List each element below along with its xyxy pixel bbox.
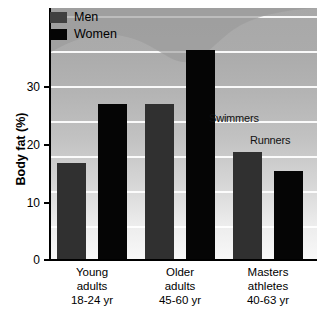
body-fat-bar-chart: Swimmers Runners Men Women 30 20 10 0 Bo…	[0, 0, 317, 317]
bar-young-adults-women	[98, 104, 127, 260]
women-swatch-icon	[50, 29, 67, 40]
y-axis-title: Body fat (%)	[14, 84, 28, 214]
x-axis-line	[49, 259, 317, 261]
gridline-30	[51, 51, 317, 53]
y-tick-mark-30	[44, 86, 50, 88]
gridline-15	[51, 156, 317, 158]
y-tick-label-0: 0	[33, 253, 40, 267]
legend-label-women: Women	[74, 27, 117, 41]
gridline-25	[51, 86, 317, 88]
bar-masters-athletes-runners	[274, 171, 303, 260]
x-axis-group-young-adults-line3: 18-24 yr	[42, 293, 142, 307]
gridline-20	[51, 121, 317, 123]
legend-item-women: Women	[50, 27, 117, 41]
plot-area: Swimmers Runners	[51, 8, 317, 259]
x-axis-group-older-adults-line1: Older	[130, 265, 230, 279]
legend-label-men: Men	[74, 10, 98, 24]
x-axis-group-masters-athletes: Masters athletes 40-63 yr	[218, 265, 317, 307]
y-tick-label-20: 20	[27, 138, 40, 152]
y-tick-label-30: 30	[27, 80, 40, 94]
annotation-swimmers: Swimmers	[209, 112, 259, 124]
bar-older-adults-men	[145, 104, 174, 260]
x-axis-group-young-adults-line2: adults	[42, 279, 142, 293]
x-axis-group-older-adults-line3: 45-60 yr	[130, 293, 230, 307]
bar-young-adults-men	[57, 163, 86, 259]
legend-item-men: Men	[50, 10, 117, 24]
x-axis-group-masters-athletes-line2: athletes	[218, 279, 317, 293]
x-axis-group-older-adults-line2: adults	[130, 279, 230, 293]
y-tick-mark-0	[44, 259, 50, 261]
x-axis-group-older-adults: Older adults 45-60 yr	[130, 265, 230, 307]
x-axis-group-young-adults-line1: Young	[42, 265, 142, 279]
y-axis-line	[49, 8, 51, 261]
x-axis-group-masters-athletes-line1: Masters	[218, 265, 317, 279]
x-axis-group-young-adults: Young adults 18-24 yr	[42, 265, 142, 307]
bar-older-adults-women	[186, 50, 215, 259]
x-axis-group-masters-athletes-line3: 40-63 yr	[218, 293, 317, 307]
bar-masters-athletes-swimmers	[233, 152, 262, 259]
y-tick-mark-10	[44, 202, 50, 204]
annotation-runners: Runners	[250, 134, 290, 146]
legend: Men Women	[50, 10, 117, 44]
y-tick-mark-20	[44, 144, 50, 146]
men-swatch-icon	[50, 12, 67, 23]
y-tick-label-10: 10	[27, 196, 40, 210]
